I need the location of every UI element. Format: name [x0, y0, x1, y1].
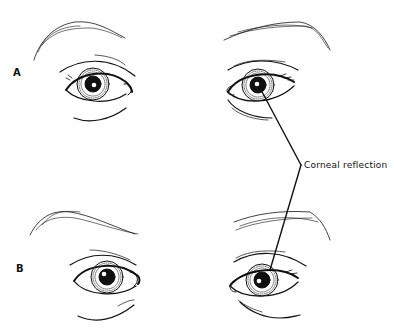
panel-label-b: B — [16, 263, 24, 274]
eye-a-left — [34, 22, 135, 121]
eye-a-right — [224, 22, 330, 120]
corneal-reflection-label: Corneal reflection — [304, 160, 387, 170]
panel-label-a: A — [13, 67, 21, 78]
eye-b-left — [30, 211, 140, 320]
callout-lines — [260, 88, 301, 270]
eye-b-right — [230, 211, 330, 318]
